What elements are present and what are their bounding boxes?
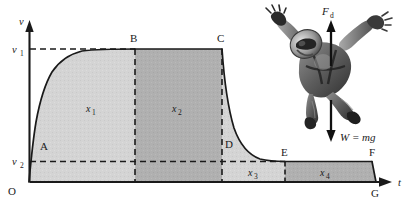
- region-x4-subscript: 4: [326, 172, 330, 181]
- y-axis-label: v: [19, 16, 24, 27]
- point-label-b: B: [130, 32, 137, 44]
- y-tick-v2-subscript: 2: [20, 161, 24, 170]
- weight-arrow-head: [326, 130, 335, 142]
- y-tick-v1-label: v 1: [12, 44, 24, 58]
- drag-arrow-head: [326, 20, 335, 32]
- y-axis-arrowhead: [25, 20, 33, 32]
- region-x4-symbol: x: [319, 167, 325, 178]
- point-label-e: E: [281, 146, 288, 158]
- x-axis-label: t: [398, 177, 402, 188]
- region-x3-subscript: 3: [254, 172, 258, 181]
- point-label-d: D: [225, 138, 233, 150]
- y-tick-v1-subscript: 1: [20, 49, 24, 58]
- x-axis-arrowhead: [379, 177, 392, 187]
- y-tick-v2-label: v 2: [12, 156, 24, 170]
- region-x3-symbol: x: [247, 167, 253, 178]
- skydiver-figure: [266, 5, 392, 129]
- point-label-c: C: [217, 32, 224, 44]
- region-x2-symbol: x: [171, 103, 177, 114]
- region-x1-symbol: x: [85, 103, 91, 114]
- region-x4-fill: [285, 162, 376, 183]
- drag-force-symbol: F: [321, 5, 329, 17]
- weight-force-label: W = mg: [340, 131, 376, 143]
- velocity-time-graph: v t O v 1 v 2 A B C D E F G x 1 x 2 x: [0, 0, 416, 207]
- region-x2-subscript: 2: [178, 108, 182, 117]
- y-tick-v2-symbol: v: [12, 156, 17, 167]
- point-label-g: G: [371, 187, 379, 199]
- region-x1-subscript: 1: [92, 108, 96, 117]
- drag-force-label: F d: [321, 5, 334, 20]
- y-tick-v1-symbol: v: [12, 44, 17, 55]
- point-label-f: F: [369, 146, 375, 158]
- point-label-a: A: [40, 140, 48, 152]
- drag-force-subscript: d: [330, 11, 334, 20]
- origin-label: O: [8, 185, 16, 197]
- figure-container: v t O v 1 v 2 A B C D E F G x 1 x 2 x: [0, 0, 416, 207]
